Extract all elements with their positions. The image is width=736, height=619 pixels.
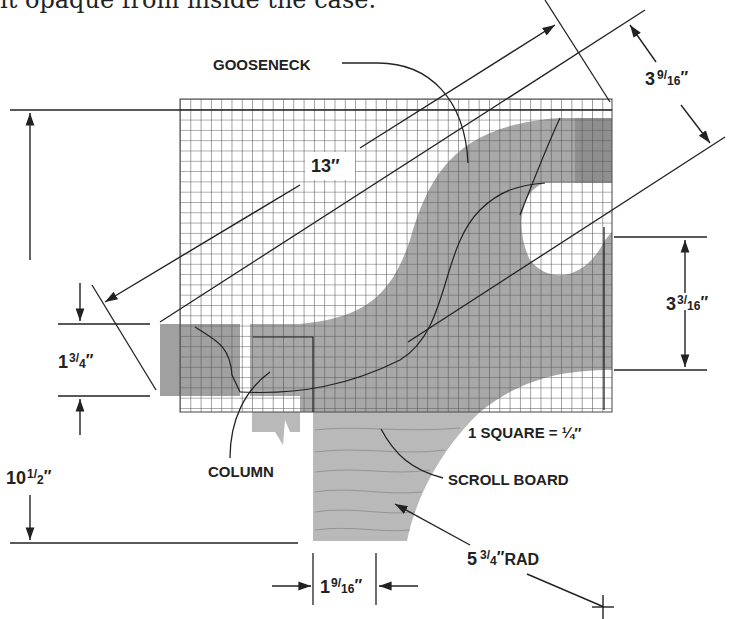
dim-left-block: 13/4″	[58, 351, 94, 372]
dim-radius: 53/4″RAD	[467, 548, 539, 569]
dim-width-top: 39/16″	[645, 68, 688, 89]
column-label: COLUMN	[208, 463, 274, 480]
gooseneck-diagram: GOOSENECK COLUMN SCROLL BOARD 1 SQUARE =…	[0, 0, 736, 619]
dim-right-height: 33/16″	[666, 293, 708, 314]
grid-scale-label: 1 SQUARE = ¼″	[468, 424, 581, 441]
scroll-board-label: SCROLL BOARD	[448, 471, 569, 488]
dim-total-height: 101/2″	[6, 467, 52, 488]
dim-diagonal-length: 13″	[311, 156, 340, 176]
dim-bottom-width: 19/16″	[320, 576, 362, 597]
column-stub	[252, 412, 300, 445]
gooseneck-label: GOOSENECK	[213, 56, 311, 73]
